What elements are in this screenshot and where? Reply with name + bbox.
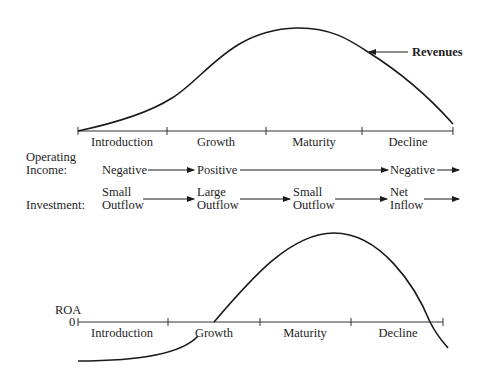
- investment-value-2-line2: Outflow: [197, 198, 239, 212]
- revenue-curve: [78, 28, 453, 131]
- stage-label-introduction: Introduction: [91, 135, 154, 149]
- stage-label-maturity: Maturity: [292, 135, 336, 149]
- investment-label: Investment:: [26, 198, 85, 212]
- operating-income-value-2: Positive: [197, 163, 238, 177]
- stage-label-growth: Growth: [197, 135, 236, 149]
- stage-label-decline: Decline: [389, 135, 428, 149]
- investment-value-3-line2: Outflow: [293, 198, 335, 212]
- revenue-annotation: Revenues: [412, 45, 463, 59]
- roa-stage-label-introduction: Introduction: [91, 326, 154, 340]
- roa-stage-label-growth: Growth: [195, 326, 234, 340]
- operating-income-value-1: Negative: [102, 163, 148, 177]
- operating-income-row: Operating Income: Negative Positive Nega…: [26, 150, 459, 177]
- revenue-chart: Revenues Introduction Growth Maturity De…: [78, 28, 463, 149]
- operating-income-label-1: Operating: [26, 150, 77, 164]
- roa-chart: ROA 0 Introduction Growth Maturity Decli…: [55, 233, 448, 361]
- investment-value-1-line2: Outflow: [102, 198, 144, 212]
- life-cycle-diagram: Revenues Introduction Growth Maturity De…: [0, 0, 485, 386]
- investment-row: Investment: Small Outflow Large Outflow …: [26, 185, 459, 212]
- roa-stage-label-decline: Decline: [379, 326, 418, 340]
- investment-value-3-line1: Small: [293, 185, 323, 199]
- roa-zero-label: 0: [69, 315, 75, 329]
- investment-value-2-line1: Large: [197, 185, 226, 199]
- investment-value-4-line1: Net: [390, 185, 409, 199]
- roa-stage-label-maturity: Maturity: [283, 326, 327, 340]
- operating-income-label-2: Income:: [26, 163, 67, 177]
- operating-income-value-3: Negative: [390, 163, 436, 177]
- investment-value-4-line2: Inflow: [390, 198, 423, 212]
- investment-value-1-line1: Small: [102, 185, 132, 199]
